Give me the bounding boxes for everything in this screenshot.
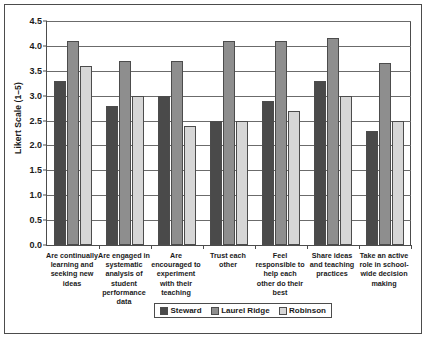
y-axis-tick-label: 2.5 (29, 116, 42, 126)
y-axis-tick-label: 4.5 (29, 16, 42, 26)
legend-item[interactable]: Steward (160, 306, 202, 315)
x-axis-category-labels: Are continually learning and seeking new… (46, 251, 410, 307)
bar (119, 61, 131, 245)
bar-group (359, 21, 411, 245)
x-axis-tick-mark (99, 245, 100, 249)
bar-group (203, 21, 255, 245)
bar (262, 101, 274, 245)
bar-group (255, 21, 307, 245)
bar (288, 111, 300, 245)
y-axis-tick-label: 3.0 (29, 91, 42, 101)
x-axis-tick-mark (307, 245, 308, 249)
bar (80, 66, 92, 245)
bar (314, 81, 326, 245)
bar (184, 126, 196, 245)
x-axis-category-label: Are engaged in systematic analysis of st… (98, 251, 150, 306)
bar-group (307, 21, 359, 245)
x-axis-tick-mark (151, 245, 152, 249)
bar (106, 106, 118, 245)
legend-label: Robinson (289, 306, 326, 315)
x-axis-category-label: Are continually learning and seeking new… (46, 251, 98, 288)
legend-swatch-icon (160, 307, 168, 315)
bar (275, 41, 287, 245)
legend-swatch-icon (211, 307, 219, 315)
bar (67, 41, 79, 245)
bar (54, 81, 66, 245)
bar-group (47, 21, 99, 245)
y-axis-tick-label: 0.5 (29, 215, 42, 225)
x-axis-category-label: Take an active role in school-wide decis… (358, 251, 410, 288)
legend-label: Laurel Ridge (221, 306, 269, 315)
legend-label: Steward (171, 306, 202, 315)
y-axis-tick-label: 4.0 (29, 41, 42, 51)
x-axis-category-label: Are encouraged to experiment with their … (150, 251, 202, 297)
bar (340, 96, 352, 245)
y-axis-tick-label: 3.5 (29, 66, 42, 76)
bar (392, 121, 404, 245)
bar (223, 41, 235, 245)
bar (210, 121, 222, 245)
chart-legend: StewardLaurel RidgeRobinson (154, 303, 332, 318)
x-axis-category-label: Feel responsible to help each other do t… (254, 251, 306, 297)
bar-group (151, 21, 203, 245)
chart-frame: Likert Scale (1–5) 0.00.51.01.52.02.53.0… (4, 4, 422, 334)
bar (132, 96, 144, 245)
bar (158, 96, 170, 245)
legend-swatch-icon (279, 307, 287, 315)
x-axis-category-label: Share ideas and teaching practices (306, 251, 358, 279)
bar (171, 61, 183, 245)
legend-item[interactable]: Laurel Ridge (211, 306, 270, 315)
bar (327, 38, 339, 245)
x-axis-category-label: Trust each other (202, 251, 254, 269)
y-axis-tick-label: 1.0 (29, 190, 42, 200)
bar (366, 131, 378, 245)
y-axis-tick-label: 0.0 (29, 240, 42, 250)
bar-group (99, 21, 151, 245)
y-axis-tick-label: 2.0 (29, 140, 42, 150)
y-axis-tick-label: 1.5 (29, 165, 42, 175)
x-axis-tick-mark (203, 245, 204, 249)
bar (236, 121, 248, 245)
bar (379, 63, 391, 245)
plot-area: 0.00.51.01.52.02.53.03.54.04.5 (46, 21, 411, 246)
legend-item[interactable]: Robinson (279, 306, 326, 315)
x-axis-tick-mark (255, 245, 256, 249)
x-axis-tick-mark (411, 245, 412, 249)
x-axis-tick-mark (359, 245, 360, 249)
y-axis-title: Likert Scale (1–5) (13, 58, 23, 178)
